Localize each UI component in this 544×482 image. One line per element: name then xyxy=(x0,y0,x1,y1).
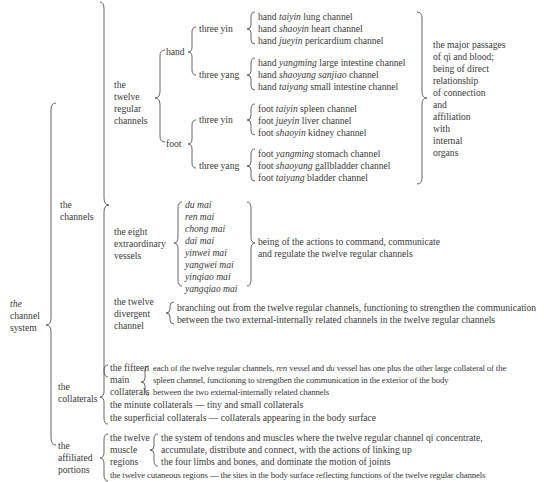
line: each of the twelve regular channels, ren… xyxy=(153,363,506,373)
foot-three-yin-label: three yin xyxy=(199,114,233,126)
hand-yin-list: hand taiyin lung channel hand shaoyin he… xyxy=(258,11,384,47)
line: spleen channel, functioning to strengthe… xyxy=(153,375,449,385)
muscle-regions-label: the twelve muscle regions xyxy=(110,432,150,468)
label-line: the xyxy=(114,79,126,90)
collaterals-label: the collaterals xyxy=(58,381,97,405)
list-item: hand shaoyin heart channel xyxy=(258,23,363,34)
brace-hand-yin xyxy=(247,12,255,44)
list-item: yinwei mai xyxy=(185,247,227,258)
list-item: hand shaoyang sanjiao channel xyxy=(258,69,379,80)
brace-eight-right xyxy=(247,202,255,286)
hand-three-yin-label: three yin xyxy=(199,23,233,35)
root-label: the channel system xyxy=(10,298,40,334)
foot-yang-list: foot yangming stomach channel foot shaoy… xyxy=(258,148,390,184)
list-item: foot shaoyin kidney channel xyxy=(258,127,366,138)
label-line: channels xyxy=(114,115,148,126)
brace-description-right xyxy=(417,12,427,184)
label-line: regular xyxy=(114,103,141,114)
list-item: hand jueyin pericardium channel xyxy=(258,35,384,46)
eight-extraordinary-description: being of the actions to command, communi… xyxy=(258,236,440,260)
root-label-line: channel xyxy=(10,310,40,321)
label-line: twelve xyxy=(114,91,140,102)
twelve-regular-description: the major passages of qi and blood; bein… xyxy=(433,39,505,159)
list-item: foot taiyin spleen channel xyxy=(258,103,357,114)
channels-label: the channels xyxy=(60,199,94,223)
list-item: dai mai xyxy=(185,235,214,246)
list-item: foot yangming stomach channel xyxy=(258,148,380,159)
foot-yin-list: foot taiyin spleen channel foot jueyin l… xyxy=(258,103,366,139)
fifteen-main-label: the fifteen main collaterals xyxy=(110,362,149,398)
hand-yang-list: hand yangming large intestine channel ha… xyxy=(258,57,405,93)
list-item: foot shaoyang gallbladder channel xyxy=(258,160,390,171)
list-item: ren mai xyxy=(185,211,214,222)
list-item: yangqiao mai xyxy=(185,283,238,294)
cutaneous-regions: the twelve cutaneous regions — the sites… xyxy=(110,469,485,481)
label-line: the xyxy=(60,199,72,210)
fifteen-main-description: each of the twelve regular channels, ren… xyxy=(153,362,506,398)
brace-root xyxy=(46,103,56,445)
list-item: hand yangming large intestine channel xyxy=(258,57,405,68)
superficial-collaterals: the superficial collaterals — collateral… xyxy=(110,412,376,424)
list-item: yinqiao mai xyxy=(185,271,231,282)
brace-hand-yang xyxy=(247,58,255,90)
eight-extraordinary-label: the eight extraordinary vessels xyxy=(114,226,166,262)
muscle-regions-description: the system of tendons and muscles where … xyxy=(161,432,483,468)
foot-label: foot xyxy=(166,138,181,150)
list-item: foot taiyang bladder channel xyxy=(258,172,368,183)
list-item: chong mai xyxy=(185,223,225,234)
brace-eight-left xyxy=(174,202,182,286)
brace-hand xyxy=(188,27,196,75)
affiliated-label: the affiliated portions xyxy=(58,440,92,476)
root-label-line: system xyxy=(10,322,37,333)
list-item: foot jueyin liver channel xyxy=(258,115,352,126)
brace-divergent xyxy=(166,302,174,324)
eight-vessels-list: du mai ren mai chong mai dai mai yinwei … xyxy=(185,199,238,295)
line: between the two external-internally rela… xyxy=(153,387,329,397)
brace-twelve-regular xyxy=(155,50,165,142)
brace-collaterals xyxy=(100,365,108,424)
divergent-description: branching out from the twelve regular ch… xyxy=(177,302,536,326)
list-item: yangwei mai xyxy=(185,259,234,270)
hand-label: hand xyxy=(166,46,185,58)
list-item: hand taiyang small intestine channel xyxy=(258,81,398,92)
brace-affiliated xyxy=(100,434,108,481)
hand-three-yang-label: three yang xyxy=(199,69,239,81)
minute-collaterals: the minute collaterals — tiny and small … xyxy=(110,399,303,411)
root-label-italic: the xyxy=(10,298,22,309)
twelve-regular-label: the twelve regular channels xyxy=(114,79,148,127)
foot-three-yang-label: three yang xyxy=(199,160,239,172)
brace-foot xyxy=(188,120,196,168)
brace-channels xyxy=(100,2,109,377)
list-item: hand taiyin lung channel xyxy=(258,11,353,22)
list-item: du mai xyxy=(185,199,211,210)
brace-muscle xyxy=(150,434,158,466)
brace-foot-yang xyxy=(247,149,255,181)
divergent-label: the twelve divergent channel xyxy=(114,296,154,332)
brace-foot-yin xyxy=(247,104,255,135)
label-line: channels xyxy=(60,211,94,222)
